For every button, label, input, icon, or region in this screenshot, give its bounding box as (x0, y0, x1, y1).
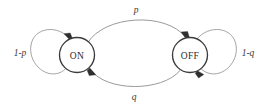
node-off[interactable]: OFF (173, 38, 208, 73)
off-to-on-curve (91, 70, 181, 87)
edge-off-to-on (87, 68, 180, 87)
on-node-label: ON (70, 51, 84, 61)
off-node-label: OFF (181, 51, 199, 61)
edge-label-q: q (132, 92, 137, 102)
edge-label-one-minus-p: 1-p (14, 48, 27, 58)
state-diagram-container: ON OFF p q 1-p 1-q (0, 0, 269, 107)
off-to-on-arrowhead (87, 68, 96, 76)
node-on[interactable]: ON (60, 38, 95, 73)
edge-on-to-off (88, 20, 189, 43)
edge-label-one-minus-q: 1-q (242, 48, 255, 58)
edge-label-p: p (133, 5, 139, 15)
on-to-off-curve (88, 20, 186, 43)
state-diagram-canvas: ON OFF p q 1-p 1-q (0, 0, 269, 107)
